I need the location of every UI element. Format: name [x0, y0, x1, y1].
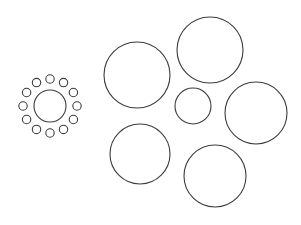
- canvas-background: [0, 0, 301, 225]
- diagram-canvas: [0, 0, 301, 225]
- circles-figure: [0, 0, 301, 225]
